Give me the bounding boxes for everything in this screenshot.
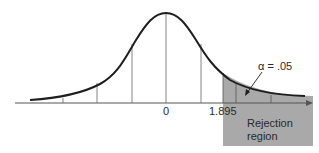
tick-label-zero: 0 [163, 105, 169, 117]
rejection-region-label-line2: region [247, 130, 278, 143]
bell-curve [30, 13, 305, 100]
rejection-region-label-line1: Rejection [247, 117, 293, 130]
tick-label-critical-value: 1.895 [209, 105, 237, 117]
alpha-label: α = .05 [258, 60, 292, 72]
